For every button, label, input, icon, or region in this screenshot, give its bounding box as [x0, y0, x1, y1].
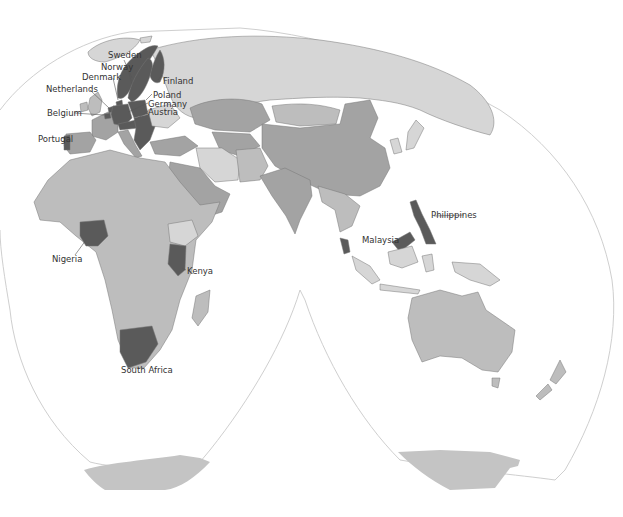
- sulawesi-shape: [422, 254, 434, 272]
- label-portugal: Portugal: [38, 134, 73, 144]
- label-philippines: Philippines: [431, 210, 477, 220]
- label-malaysia: Malaysia: [362, 235, 399, 245]
- label-nigeria: Nigeria: [52, 254, 82, 264]
- kazakhstan-shape: [190, 99, 270, 132]
- world-map: Sweden Norway Denmark Finland Netherland…: [0, 0, 623, 517]
- south-africa-shape: [120, 326, 158, 368]
- antarctica-west-shape: [84, 455, 210, 490]
- madagascar-shape: [192, 290, 210, 326]
- label-belgium: Belgium: [47, 108, 82, 118]
- label-netherlands: Netherlands: [46, 84, 98, 94]
- australia-shape: [408, 290, 515, 372]
- label-kenya: Kenya: [187, 266, 213, 276]
- label-denmark: Denmark: [82, 72, 121, 82]
- label-norway: Norway: [101, 62, 133, 72]
- korea-japan-shape: [390, 120, 424, 154]
- new-zealand-shape: [536, 360, 566, 400]
- borneo-shape: [388, 246, 418, 268]
- belgium-shape: [104, 113, 111, 119]
- india-shape: [260, 168, 312, 234]
- label-sweden: Sweden: [108, 50, 142, 60]
- label-south-africa: South Africa: [121, 365, 173, 375]
- new-guinea-shape: [452, 262, 500, 286]
- label-finland: Finland: [163, 76, 193, 86]
- label-austria: Austria: [148, 107, 178, 117]
- turkey-shape: [150, 136, 198, 156]
- mongolia-shape: [272, 104, 340, 126]
- iceland-shape: [140, 36, 152, 43]
- uk-shape: [88, 92, 102, 116]
- philippines-shape: [410, 200, 436, 244]
- tasmania-shape: [492, 378, 500, 388]
- antarctica-east-shape: [398, 450, 520, 490]
